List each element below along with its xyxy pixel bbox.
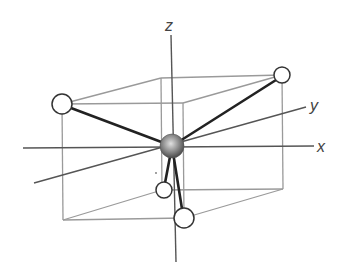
cube-edge [282, 75, 283, 189]
ligand-upper-left-atom [52, 94, 72, 114]
speck-dot [155, 172, 157, 174]
ligand-lower-front-atom [174, 208, 194, 228]
cube-edge [161, 75, 282, 78]
bond-upper-left [71, 108, 172, 146]
cube-edge [62, 104, 63, 220]
cube-edge [62, 103, 183, 104]
cube-edge [62, 78, 161, 104]
cube-edge [63, 218, 184, 220]
cube-edge [184, 189, 283, 218]
molecule-diagram: z y x [0, 0, 350, 279]
x-axis-label: x [316, 138, 326, 155]
cube-edge [161, 78, 162, 190]
central-atom [160, 134, 184, 158]
y-axis-label: y [309, 97, 319, 114]
cube-edge [63, 190, 162, 220]
ligand-lower-back-atom [156, 182, 172, 198]
cube-edge [183, 103, 184, 218]
ligand-upper-right-atom [274, 67, 290, 83]
z-axis-label: z [164, 17, 173, 34]
bond-upper-right [172, 80, 276, 146]
cube-edge [183, 75, 282, 103]
